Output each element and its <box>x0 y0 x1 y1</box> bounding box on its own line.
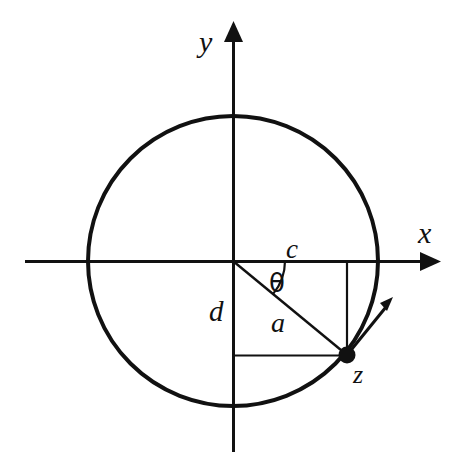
label-z: z <box>352 360 363 389</box>
arrow-right-icon <box>420 252 441 271</box>
label-d: d <box>209 295 224 327</box>
arrow-diagonal-icon <box>380 297 393 311</box>
arrow-up-icon <box>224 21 243 42</box>
y-axis-label: y <box>196 25 213 58</box>
y-axis <box>224 21 243 452</box>
label-theta: θ <box>269 268 285 298</box>
label-c: c <box>286 234 298 264</box>
geometry-diagram: y x c d a θ z <box>0 0 468 475</box>
x-axis-label: x <box>417 216 432 249</box>
label-a: a <box>271 307 285 338</box>
figure-container: y x c d a θ z <box>0 0 468 475</box>
radius-segment-a <box>233 261 347 355</box>
